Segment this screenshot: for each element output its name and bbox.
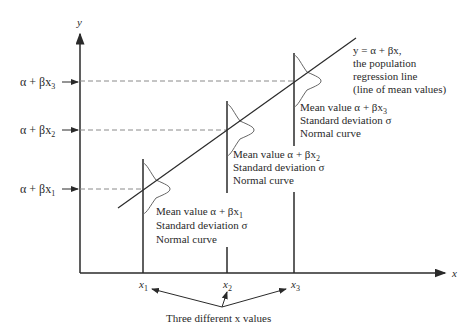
svg-text:regression line: regression line [353, 70, 418, 82]
x-label-1: x1 [138, 278, 148, 293]
x-axis-label: x [451, 267, 457, 279]
y-label-3: α + βx3 [20, 75, 78, 91]
annotation-x1: Mean value α + βx1 Standard deviation σ … [156, 205, 248, 245]
y-axis-label: y [76, 16, 82, 28]
x-label-2: x2 [222, 278, 232, 293]
svg-text:Normal curve: Normal curve [233, 174, 294, 186]
svg-text:Standard deviation σ: Standard deviation σ [233, 161, 325, 173]
regression-label: y = α + βx, the population regression li… [353, 44, 446, 96]
svg-text:(line of mean values): (line of mean values) [353, 83, 446, 96]
y-label-1: α + βx1 [20, 182, 78, 198]
svg-text:Normal curve: Normal curve [156, 233, 217, 245]
svg-text:the population: the population [353, 57, 417, 69]
svg-text:α + βx3: α + βx3 [20, 75, 55, 91]
svg-text:Standard deviation σ: Standard deviation σ [300, 114, 392, 126]
normal-curve-3 [294, 55, 321, 107]
svg-text:y = α + βx,: y = α + βx, [353, 44, 402, 56]
svg-text:α + βx2: α + βx2 [20, 123, 55, 139]
regression-diagram: y x α + βx3 α + βx2 α + βx1 y = α + βx, … [0, 0, 473, 335]
svg-text:Mean value α + βx1: Mean value α + βx1 [156, 205, 243, 220]
pointer-arrow-x1 [152, 289, 222, 307]
bottom-caption: Three different x values [166, 312, 271, 324]
pointer-arrow-x2 [222, 292, 227, 307]
svg-text:α + βx1: α + βx1 [20, 182, 55, 198]
svg-text:Normal curve: Normal curve [300, 127, 361, 139]
svg-text:Standard deviation σ: Standard deviation σ [156, 219, 248, 231]
x-label-3: x3 [290, 278, 300, 293]
y-label-2: α + βx2 [20, 123, 78, 139]
annotation-x2: Mean value α + βx2 Standard deviation σ … [233, 148, 325, 186]
annotation-x3: Mean value α + βx3 Standard deviation σ … [300, 101, 392, 139]
